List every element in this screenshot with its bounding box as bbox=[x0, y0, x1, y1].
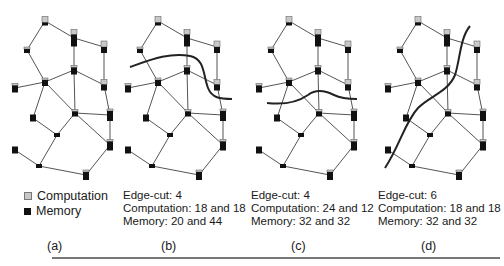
graph-edge bbox=[418, 21, 447, 38]
graph-edge bbox=[128, 150, 152, 166]
memory-block bbox=[155, 80, 161, 86]
computation-block bbox=[315, 66, 321, 68]
panel-d-edge-cut: Edge-cut: 6 bbox=[378, 189, 437, 202]
memory-block bbox=[286, 23, 292, 26]
computation-swatch-icon bbox=[24, 192, 32, 200]
computation-block bbox=[256, 84, 262, 86]
memory-block bbox=[12, 147, 18, 154]
memory-block bbox=[298, 133, 304, 137]
memory-block bbox=[72, 112, 78, 117]
graph-edge bbox=[400, 50, 418, 82]
computation-block bbox=[474, 41, 480, 47]
graph-edge bbox=[289, 21, 318, 38]
memory-block bbox=[167, 133, 173, 137]
computation-block bbox=[385, 84, 391, 86]
legend-memory-label: Memory bbox=[36, 204, 81, 218]
computation-block bbox=[351, 109, 357, 111]
memory-block bbox=[71, 68, 77, 75]
computation-block bbox=[397, 47, 403, 49]
computation-block bbox=[415, 78, 421, 80]
memory-block bbox=[137, 49, 143, 53]
memory-block bbox=[125, 86, 131, 93]
memory-block bbox=[196, 172, 202, 180]
graph-edge bbox=[158, 21, 187, 38]
graph-panel-b bbox=[125, 17, 232, 181]
panel-label-c: (c) bbox=[291, 239, 306, 253]
memory-block bbox=[149, 164, 155, 168]
memory-block bbox=[397, 49, 403, 53]
computation-block bbox=[71, 30, 77, 35]
graph-edge bbox=[318, 38, 348, 47]
computation-block bbox=[316, 110, 322, 112]
graph-edge bbox=[152, 166, 199, 175]
computation-block bbox=[456, 170, 462, 172]
graph-edge bbox=[199, 145, 223, 175]
computation-block bbox=[196, 170, 202, 172]
memory-block bbox=[286, 80, 292, 86]
graph-edge bbox=[33, 118, 57, 135]
memory-block bbox=[12, 86, 18, 93]
computation-block bbox=[444, 66, 450, 68]
panel-b-edge-cut: Edge-cut: 4 bbox=[123, 189, 182, 202]
computation-block bbox=[480, 109, 486, 111]
graph-edge bbox=[448, 113, 483, 115]
memory-block bbox=[474, 85, 480, 91]
computation-block bbox=[185, 110, 191, 112]
graph-edge bbox=[406, 82, 418, 118]
graph-edge bbox=[74, 38, 104, 47]
computation-block bbox=[214, 41, 220, 47]
graph-edge bbox=[187, 70, 188, 113]
memory-block bbox=[42, 80, 48, 86]
memory-block bbox=[345, 85, 351, 91]
graph-edge bbox=[259, 82, 289, 88]
memory-block bbox=[427, 133, 433, 137]
memory-block bbox=[184, 68, 190, 75]
memory-block bbox=[345, 47, 351, 53]
legend-computation: Computation bbox=[24, 189, 108, 203]
memory-block bbox=[184, 35, 190, 47]
computation-block bbox=[24, 47, 30, 49]
computation-block bbox=[184, 66, 190, 68]
graph-panel-a bbox=[12, 17, 113, 181]
graph-edge bbox=[277, 82, 289, 118]
computation-block bbox=[268, 47, 274, 49]
computation-block bbox=[184, 30, 190, 35]
memory-block bbox=[415, 80, 421, 86]
graph-edge bbox=[27, 50, 45, 82]
memory-block bbox=[214, 47, 220, 53]
memory-block bbox=[315, 35, 321, 47]
graph-edge bbox=[39, 135, 57, 166]
memory-block bbox=[256, 147, 262, 154]
computation-block bbox=[445, 110, 451, 112]
memory-block bbox=[351, 111, 357, 121]
memory-block bbox=[268, 49, 274, 53]
panel-d-memory: Memory: 32 and 32 bbox=[378, 215, 477, 228]
computation-block bbox=[107, 109, 113, 111]
graph-edge bbox=[283, 135, 301, 166]
memory-block bbox=[101, 85, 107, 91]
memory-block bbox=[316, 112, 322, 117]
memory-block bbox=[444, 68, 450, 75]
panel-label-b: (b) bbox=[161, 239, 176, 253]
memory-block bbox=[107, 142, 113, 151]
memory-block bbox=[71, 35, 77, 47]
computation-block bbox=[315, 30, 321, 35]
computation-block bbox=[345, 41, 351, 47]
memory-block bbox=[155, 23, 161, 26]
computation-block bbox=[72, 110, 78, 112]
computation-block bbox=[12, 84, 18, 86]
graph-edge bbox=[45, 70, 74, 82]
computation-block bbox=[42, 78, 48, 80]
memory-block bbox=[220, 142, 226, 151]
computation-block bbox=[444, 30, 450, 35]
memory-block bbox=[444, 35, 450, 47]
graph-edge bbox=[277, 118, 301, 135]
graph-edge bbox=[146, 82, 158, 118]
graph-edge bbox=[140, 50, 158, 82]
graph-edge bbox=[319, 113, 354, 145]
computation-block bbox=[107, 140, 113, 142]
computation-block bbox=[101, 41, 107, 47]
computation-block bbox=[351, 140, 357, 142]
memory-block bbox=[445, 112, 451, 117]
computation-block bbox=[42, 17, 48, 23]
